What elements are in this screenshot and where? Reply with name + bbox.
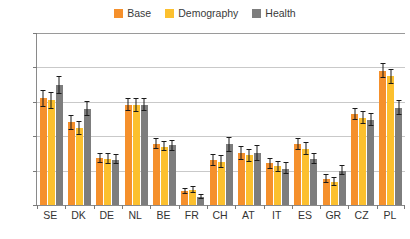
x-axis-label-it: IT bbox=[263, 209, 291, 221]
error-bar bbox=[144, 98, 145, 112]
bar-dk-demography[interactable] bbox=[76, 128, 83, 205]
x-axis-labels: SEDKDENLBEFRCHATITESGRCZPL bbox=[36, 209, 404, 221]
error-bar bbox=[229, 137, 230, 152]
bar-slot bbox=[161, 33, 168, 205]
bar-slot bbox=[367, 33, 374, 205]
bar-ch-base[interactable] bbox=[210, 160, 217, 205]
bar-it-demography[interactable] bbox=[274, 166, 281, 205]
error-bar bbox=[334, 177, 335, 186]
bar-slot bbox=[76, 33, 83, 205]
bar-group-cz bbox=[348, 33, 376, 205]
bar-slot bbox=[254, 33, 261, 205]
bar-dk-base[interactable] bbox=[68, 122, 75, 205]
bar-slot bbox=[310, 33, 317, 205]
error-bar bbox=[342, 165, 343, 175]
error-bar bbox=[313, 153, 314, 165]
bar-de-demography[interactable] bbox=[104, 159, 111, 205]
x-axis-label-dk: DK bbox=[64, 209, 92, 221]
bar-be-health[interactable] bbox=[169, 145, 176, 205]
bar-slot bbox=[218, 33, 225, 205]
bar-nl-demography[interactable] bbox=[133, 105, 140, 205]
bar-groups bbox=[37, 33, 405, 205]
bar-slot bbox=[387, 33, 394, 205]
error-bar bbox=[43, 90, 44, 107]
error-bar bbox=[200, 194, 201, 199]
x-axis-label-de: DE bbox=[93, 209, 121, 221]
bar-es-health[interactable] bbox=[310, 159, 317, 205]
bar-slot bbox=[395, 33, 402, 205]
bar-slot bbox=[274, 33, 281, 205]
bar-es-base[interactable] bbox=[294, 144, 301, 205]
bar-pl-health[interactable] bbox=[395, 108, 402, 205]
error-bar bbox=[156, 138, 157, 149]
bar-de-base[interactable] bbox=[96, 158, 103, 205]
error-bar bbox=[172, 140, 173, 151]
x-axis-label-fr: FR bbox=[178, 209, 206, 221]
legend-item-label: Health bbox=[265, 8, 295, 19]
bar-pl-demography[interactable] bbox=[387, 76, 394, 205]
error-bar bbox=[241, 146, 242, 160]
bar-slot bbox=[210, 33, 217, 205]
bar-cz-base[interactable] bbox=[351, 114, 358, 205]
legend-item-demography[interactable]: Demography bbox=[165, 8, 238, 19]
bar-it-base[interactable] bbox=[266, 163, 273, 205]
error-bar bbox=[390, 69, 391, 84]
error-bar bbox=[370, 113, 371, 126]
bar-at-demography[interactable] bbox=[246, 155, 253, 205]
error-bar bbox=[213, 154, 214, 166]
error-bar bbox=[107, 153, 108, 163]
bar-dk-health[interactable] bbox=[84, 109, 91, 205]
bar-group-it bbox=[264, 33, 292, 205]
bar-cz-health[interactable] bbox=[367, 120, 374, 205]
bar-ch-demography[interactable] bbox=[218, 162, 225, 205]
bar-cz-demography[interactable] bbox=[359, 118, 366, 205]
bar-se-demography[interactable] bbox=[48, 100, 55, 205]
bar-se-base[interactable] bbox=[40, 98, 47, 205]
x-axis-label-gr: GR bbox=[319, 209, 347, 221]
bar-slot bbox=[379, 33, 386, 205]
chart-legend: BaseDemographyHealth bbox=[0, 8, 410, 19]
x-axis-label-es: ES bbox=[291, 209, 319, 221]
legend-item-label: Base bbox=[127, 8, 151, 19]
x-axis-label-at: AT bbox=[234, 209, 262, 221]
bar-group-es bbox=[292, 33, 320, 205]
error-bar bbox=[269, 158, 270, 169]
bar-slot bbox=[339, 33, 346, 205]
bar-slot bbox=[266, 33, 273, 205]
bar-slot bbox=[189, 33, 196, 205]
bar-se-health[interactable] bbox=[56, 85, 63, 205]
bar-slot bbox=[133, 33, 140, 205]
bar-at-base[interactable] bbox=[238, 153, 245, 205]
bar-nl-base[interactable] bbox=[125, 105, 132, 205]
error-bar bbox=[51, 92, 52, 109]
bar-slot bbox=[323, 33, 330, 205]
bar-pl-base[interactable] bbox=[379, 71, 386, 205]
error-bar bbox=[87, 101, 88, 116]
bar-de-health[interactable] bbox=[112, 160, 119, 205]
bar-slot bbox=[153, 33, 160, 205]
bar-chart: BaseDemographyHealth 0 %5 %10 %15 %20 %2… bbox=[0, 0, 410, 239]
bar-slot bbox=[141, 33, 148, 205]
bar-be-demography[interactable] bbox=[161, 147, 168, 205]
x-axis-label-cz: CZ bbox=[347, 209, 375, 221]
legend-swatch-icon bbox=[114, 9, 123, 18]
error-bar bbox=[221, 155, 222, 167]
x-axis-label-pl: PL bbox=[376, 209, 404, 221]
legend-item-base[interactable]: Base bbox=[114, 8, 151, 19]
x-tick-mark bbox=[404, 205, 405, 209]
error-bar bbox=[362, 111, 363, 123]
bar-ch-health[interactable] bbox=[226, 144, 233, 205]
bar-group-at bbox=[235, 33, 263, 205]
error-bar bbox=[184, 188, 185, 194]
bar-at-health[interactable] bbox=[254, 153, 261, 205]
bar-group-se bbox=[37, 33, 65, 205]
legend-item-health[interactable]: Health bbox=[252, 8, 295, 19]
error-bar bbox=[305, 142, 306, 154]
bar-slot bbox=[238, 33, 245, 205]
bar-be-base[interactable] bbox=[153, 144, 160, 205]
bar-es-demography[interactable] bbox=[302, 149, 309, 205]
error-bar bbox=[277, 161, 278, 172]
bar-gr-health[interactable] bbox=[339, 171, 346, 205]
bar-nl-health[interactable] bbox=[141, 105, 148, 205]
bar-slot bbox=[125, 33, 132, 205]
